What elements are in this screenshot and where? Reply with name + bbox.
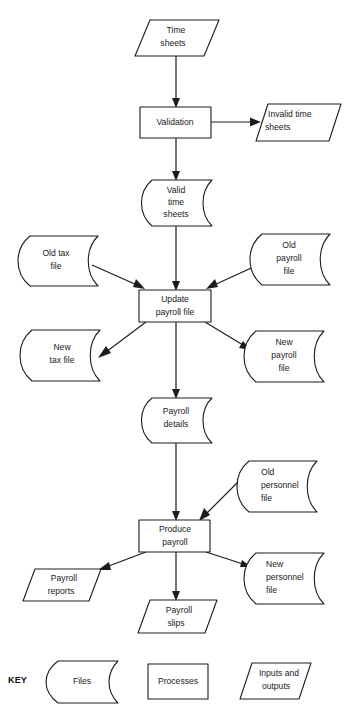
node-payroll-slips-line-1: slips bbox=[167, 618, 184, 628]
node-invalid-time-sheets-line-0: Invalid time bbox=[268, 109, 312, 119]
key-legend: KEY Files Processes Inputs and outputs bbox=[8, 661, 311, 703]
node-produce-payroll-line-0: Produce bbox=[159, 524, 191, 534]
node-old-payroll-file-line-1: payroll bbox=[276, 253, 301, 263]
node-payroll-reports[interactable]: Payroll reports bbox=[23, 569, 101, 601]
node-new-personnel-file[interactable]: New personnel file bbox=[244, 553, 324, 604]
node-invalid-time-sheets[interactable]: Invalid time sheets bbox=[256, 104, 341, 141]
flow-produce-to-slips bbox=[172, 552, 180, 601]
node-new-tax-file-line-1: tax file bbox=[50, 355, 75, 365]
node-old-payroll-file-line-2: file bbox=[284, 266, 295, 276]
node-new-payroll-file-line-2: file bbox=[279, 363, 290, 373]
node-time-sheets[interactable]: Time sheets bbox=[135, 20, 219, 56]
flow-old-tax-to-update bbox=[92, 265, 145, 289]
flow-valid-to-update bbox=[172, 226, 180, 291]
node-old-personnel-file-line-2: file bbox=[261, 493, 272, 503]
node-payroll-slips[interactable]: Payroll slips bbox=[138, 600, 217, 633]
flow-old-personnel-to-produce bbox=[199, 478, 242, 521]
flow-validation-to-invalid bbox=[211, 118, 261, 127]
node-update-payroll-file[interactable]: Update payroll file bbox=[139, 290, 211, 322]
node-payroll-details-line-1: details bbox=[164, 419, 189, 429]
node-new-personnel-file-line-0: New bbox=[266, 559, 284, 569]
key-title: KEY bbox=[8, 675, 27, 685]
node-valid-time-sheets-line-2: sheets bbox=[163, 209, 188, 219]
key-item-inputs-outputs-line-1: outputs bbox=[262, 681, 290, 691]
node-produce-payroll-line-1: payroll bbox=[162, 537, 187, 547]
node-old-payroll-file-line-0: Old bbox=[282, 240, 296, 250]
flowchart-canvas: Time sheets Validation Invalid time shee… bbox=[0, 0, 349, 724]
key-item-files-label: Files bbox=[73, 676, 91, 686]
node-produce-payroll[interactable]: Produce payroll bbox=[139, 520, 210, 552]
node-old-payroll-file[interactable]: Old payroll file bbox=[250, 234, 330, 285]
node-new-payroll-file-line-1: payroll bbox=[271, 350, 296, 360]
flow-time-sheets-to-validation bbox=[172, 56, 180, 108]
flow-update-to-new-tax bbox=[98, 322, 146, 358]
node-payroll-reports-line-0: Payroll bbox=[51, 573, 77, 583]
flow-update-to-payroll-details bbox=[172, 322, 180, 399]
node-update-payroll-file-line-1: payroll file bbox=[156, 307, 195, 317]
node-time-sheets-line-1: sheets bbox=[160, 38, 185, 48]
node-payroll-details[interactable]: Payroll details bbox=[142, 398, 213, 443]
node-old-tax-file-line-1: file bbox=[51, 261, 62, 271]
flow-produce-to-reports bbox=[98, 552, 146, 570]
node-update-payroll-file-line-0: Update bbox=[161, 294, 189, 304]
node-new-personnel-file-line-1: personnel bbox=[266, 572, 304, 582]
node-valid-time-sheets-line-1: time bbox=[168, 197, 184, 207]
node-old-personnel-file-line-1: personnel bbox=[261, 480, 299, 490]
node-valid-time-sheets-line-0: Valid bbox=[167, 185, 186, 195]
node-validation-line-0: Validation bbox=[156, 117, 193, 127]
node-old-tax-file-line-0: Old tax bbox=[42, 248, 70, 258]
flow-update-to-new-payroll bbox=[205, 322, 251, 350]
flow-old-payroll-to-update bbox=[206, 265, 258, 289]
node-new-tax-file-line-0: New bbox=[53, 342, 71, 352]
flow-produce-to-new-personnel bbox=[206, 552, 251, 567]
flow-validation-to-valid bbox=[172, 138, 180, 181]
node-invalid-time-sheets-line-1: sheets bbox=[265, 122, 290, 132]
flow-payroll-details-to-produce bbox=[172, 443, 180, 521]
node-new-payroll-file[interactable]: New payroll file bbox=[244, 331, 324, 382]
node-valid-time-sheets[interactable]: Valid time sheets bbox=[142, 180, 213, 226]
node-payroll-details-line-0: Payroll bbox=[163, 406, 189, 416]
node-old-personnel-file[interactable]: Old personnel file bbox=[237, 461, 317, 512]
node-new-personnel-file-line-2: file bbox=[266, 585, 277, 595]
node-new-payroll-file-line-0: New bbox=[275, 337, 293, 347]
node-payroll-slips-line-0: Payroll bbox=[166, 605, 192, 615]
node-time-sheets-line-0: Time bbox=[167, 25, 186, 35]
key-item-inputs-outputs-line-0: Inputs and bbox=[259, 668, 299, 678]
key-item-processes-label: Processes bbox=[158, 676, 198, 686]
key-item-processes: Processes bbox=[148, 664, 208, 699]
node-old-personnel-file-line-0: Old bbox=[261, 467, 275, 477]
payroll-flowchart-diagram: Time sheets Validation Invalid time shee… bbox=[0, 0, 349, 724]
node-new-tax-file[interactable]: New tax file bbox=[20, 330, 100, 381]
node-validation[interactable]: Validation bbox=[140, 107, 211, 138]
key-item-files: Files bbox=[46, 661, 118, 703]
node-old-tax-file[interactable]: Old tax file bbox=[18, 236, 98, 286]
key-item-inputs-outputs: Inputs and outputs bbox=[240, 663, 311, 699]
node-payroll-reports-line-1: reports bbox=[48, 586, 75, 596]
